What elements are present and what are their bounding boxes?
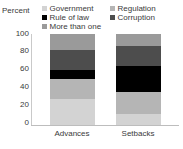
y-tick-20: 20 xyxy=(0,101,29,109)
bar-segment-more-than-one[interactable] xyxy=(116,34,161,46)
legend-item-regulation[interactable]: Regulation xyxy=(110,4,156,13)
legend-swatch-rule-of-law xyxy=(42,15,47,20)
bar-segment-corruption[interactable] xyxy=(116,46,161,66)
x-axis-label-advances: Advances xyxy=(37,129,107,138)
y-tick-60: 60 xyxy=(0,65,29,73)
y-tick-80: 80 xyxy=(0,47,29,55)
legend-swatch-more-than-one xyxy=(42,24,47,29)
bar-advances[interactable] xyxy=(50,34,95,125)
bar-segment-regulation[interactable] xyxy=(116,92,161,114)
plot-area: 100 80 60 40 20 0 Advances Setbacks xyxy=(0,33,183,149)
bar-segment-rule-of-law[interactable] xyxy=(116,66,161,92)
bar-segment-more-than-one[interactable] xyxy=(50,34,95,50)
bar-setbacks[interactable] xyxy=(116,34,161,125)
legend-label-more-than-one: More than one xyxy=(50,22,102,31)
legend-label-corruption: Corruption xyxy=(118,13,155,22)
legend-item-government[interactable]: Government xyxy=(42,4,94,13)
y-tick-label-20: 20 xyxy=(3,101,29,109)
y-tick-label-40: 40 xyxy=(3,83,29,91)
legend-label-government: Government xyxy=(50,4,94,13)
x-axis-line xyxy=(31,125,179,126)
y-tick-100: 100 xyxy=(0,30,29,38)
bar-segment-government[interactable] xyxy=(50,99,95,125)
y-axis-line xyxy=(31,34,32,125)
y-tick-0: 0 xyxy=(0,119,29,127)
bar-segment-corruption[interactable] xyxy=(50,50,95,70)
chart-root: Percent Government Rule of law More than… xyxy=(0,0,183,149)
y-tick-label-60: 60 xyxy=(3,65,29,73)
y-axis-title: Percent xyxy=(2,6,30,15)
legend-item-more-than-one[interactable]: More than one xyxy=(42,22,101,31)
legend-item-rule-of-law[interactable]: Rule of law xyxy=(42,13,89,22)
legend-swatch-corruption xyxy=(110,15,115,20)
legend-swatch-government xyxy=(42,6,47,11)
bar-segment-government[interactable] xyxy=(116,114,161,125)
legend-label-rule-of-law: Rule of law xyxy=(50,13,90,22)
bar-segment-rule-of-law[interactable] xyxy=(50,70,95,78)
y-tick-label-80: 80 xyxy=(3,47,29,55)
legend-swatch-regulation xyxy=(110,6,115,11)
legend-label-regulation: Regulation xyxy=(118,4,156,13)
y-tick-label-0: 0 xyxy=(3,119,29,127)
chart-legend: Government Rule of law More than one Reg… xyxy=(42,4,183,32)
bar-segment-regulation[interactable] xyxy=(50,79,95,99)
x-axis-label-setbacks: Setbacks xyxy=(103,129,173,138)
y-tick-label-100: 100 xyxy=(3,30,29,38)
legend-item-corruption[interactable]: Corruption xyxy=(110,13,155,22)
y-tick-40: 40 xyxy=(0,83,29,91)
